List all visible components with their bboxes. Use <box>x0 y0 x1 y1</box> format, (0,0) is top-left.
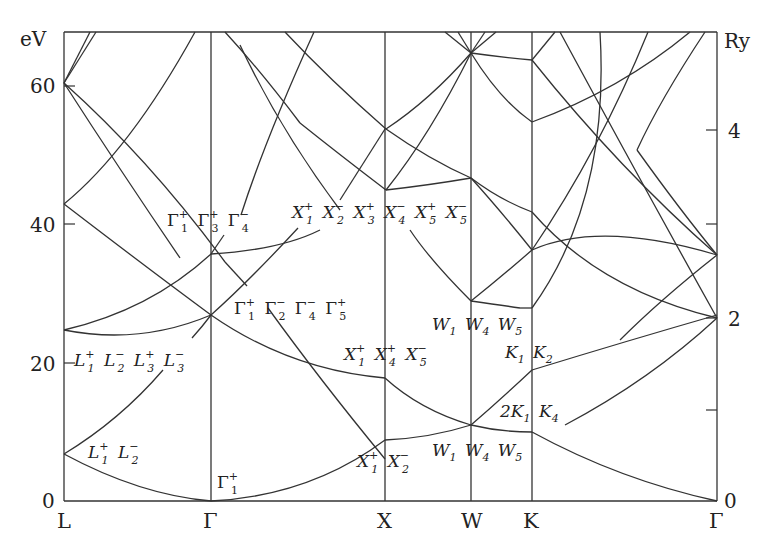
label-L-low: L+1 L−2 <box>87 440 138 468</box>
label-X-low: X+1 X−2 <box>355 449 409 477</box>
label-W-low: W1 W4 W5 <box>432 440 522 465</box>
label-X-high: X+1 X−2 X+3 X−4 X+5 X−5 <box>290 200 467 228</box>
kpoint-X: X <box>377 509 392 533</box>
kpoint-W: W <box>461 509 483 533</box>
bands <box>64 32 717 501</box>
kpoint-K: K <box>523 509 539 533</box>
left-tick-40: 40 <box>30 213 55 237</box>
right-tick-2: 2 <box>728 307 741 331</box>
left-tick-20: 20 <box>30 352 55 376</box>
right-ticks <box>706 130 717 410</box>
plot-frame <box>64 32 717 501</box>
label-L-mid: L+1 L−2 L+3 L−3 <box>73 348 184 376</box>
left-unit-label: eV <box>20 27 47 51</box>
right-unit-label: Ry <box>724 29 751 53</box>
irrep-labels: L+1 L−2 L+1 L−2 L+3 L−3 Γ+1 Γ+1 Γ−2 Γ−4 … <box>73 200 559 497</box>
label-K-mid: K1 K2 <box>504 342 553 367</box>
label-W-mid: W1 W4 W5 <box>432 314 522 339</box>
kpoint-L: L <box>57 509 71 533</box>
label-gamma-mid: Γ+1 Γ−2 Γ−4 Γ+5 <box>234 296 346 324</box>
left-ticks <box>64 86 75 363</box>
left-tick-60: 60 <box>30 74 55 98</box>
label-gamma-low: Γ+1 <box>217 470 238 497</box>
right-tick-4: 4 <box>728 119 741 143</box>
right-tick-0: 0 <box>724 489 737 513</box>
left-tick-0: 0 <box>42 489 55 513</box>
band-structure-chart: eV Ry 60 40 20 0 4 2 0 L Γ X W K Γ L+1 L… <box>0 0 780 556</box>
label-gamma-high: Γ+1 Γ+3 Γ−4 <box>167 208 249 236</box>
kpoint-gamma: Γ <box>203 509 218 533</box>
kpoint-gamma-end: Γ <box>709 509 724 533</box>
label-K-low: 2K1 K4 <box>499 401 559 426</box>
